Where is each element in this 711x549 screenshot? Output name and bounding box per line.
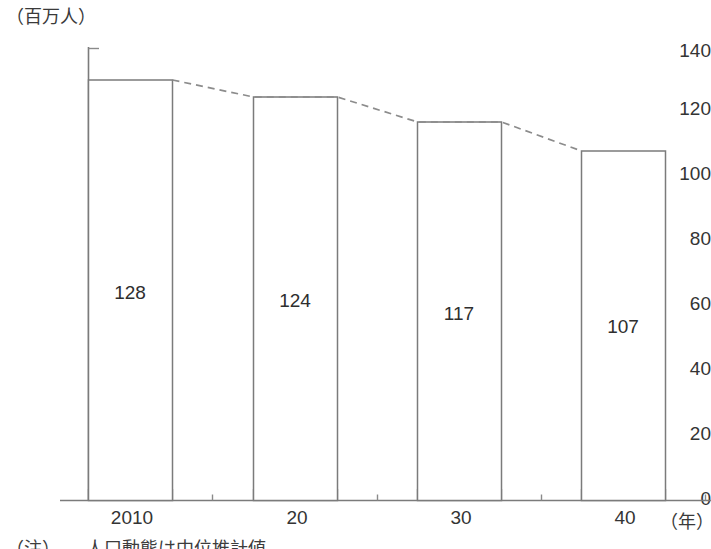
bar-value-30: 117 [417,304,501,323]
note-marker: （注） [6,539,60,549]
bar-value-2010: 128 [88,283,172,302]
chart-figure: （百万人） 140 120 100 80 60 40 20 0 [0,0,711,549]
bar-value-40: 107 [581,317,665,336]
bar-value-20: 124 [253,291,337,310]
x-tick-label-2010: 2010 [90,508,174,527]
x-axis-unit-label: （年） [660,507,711,533]
x-tick-label-40: 40 [583,508,667,527]
trend-line-dashed [173,80,582,151]
x-tick-label-30: 30 [419,508,503,527]
chart-note: （注）人口動態は中位推計値 [6,534,266,549]
note-text: 人口動態は中位推計値 [86,539,266,549]
chart-plot-area [0,0,711,549]
x-tick-label-20: 20 [255,508,339,527]
